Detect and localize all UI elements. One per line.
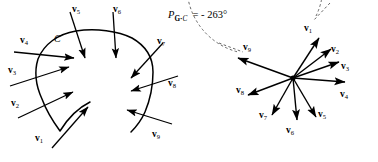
figure-canvas: PG·C = - 263° C v1 v2 bbox=[0, 0, 378, 162]
figure-background bbox=[0, 0, 378, 162]
curve-label-c: C bbox=[54, 33, 61, 44]
figure-root: PG·C = - 263° C v1 v2 bbox=[0, 0, 378, 162]
